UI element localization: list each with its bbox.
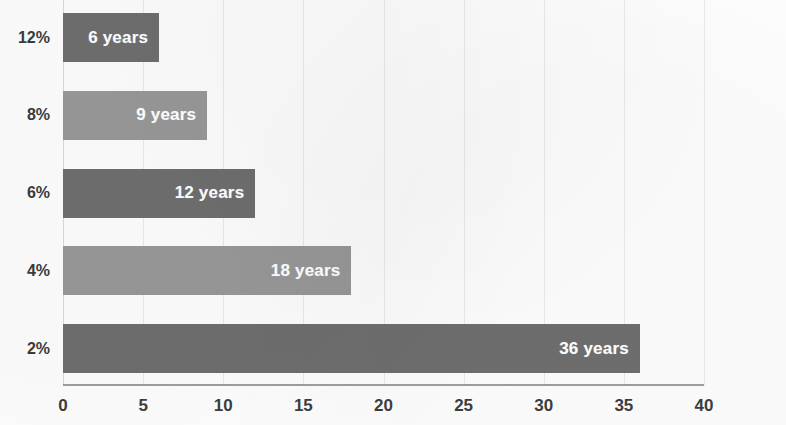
bar-12pct: 6 years	[63, 13, 159, 62]
x-axis-tick-30: 30	[524, 396, 564, 416]
bar-6pct: 12 years	[63, 169, 255, 218]
x-axis-tick-40: 40	[684, 396, 724, 416]
gridline-40	[704, 0, 705, 385]
bar-8pct: 9 years	[63, 91, 207, 140]
y-axis-label-4pct: 4%	[0, 262, 50, 280]
bar-value-label: 36 years	[559, 339, 640, 359]
y-axis-label-8pct: 8%	[0, 106, 50, 124]
x-axis-tick-10: 10	[203, 396, 243, 416]
bar-2pct: 36 years	[63, 324, 640, 373]
bar-4pct: 18 years	[63, 246, 351, 295]
y-axis-label-12pct: 12%	[0, 29, 50, 47]
x-axis-tick-35: 35	[604, 396, 644, 416]
bar-value-label: 9 years	[136, 105, 207, 125]
bar-value-label: 12 years	[175, 183, 256, 203]
x-axis-tick-25: 25	[444, 396, 484, 416]
bar-chart: 6 years9 years12 years18 years36 years 1…	[0, 0, 786, 425]
x-axis-tick-15: 15	[283, 396, 323, 416]
plot-area: 6 years9 years12 years18 years36 years	[63, 0, 704, 385]
y-axis-label-2pct: 2%	[0, 340, 50, 358]
x-axis-tick-20: 20	[364, 396, 404, 416]
x-axis-tick-5: 5	[123, 396, 163, 416]
x-axis-tick-0: 0	[43, 396, 83, 416]
bar-value-label: 6 years	[88, 28, 159, 48]
bar-value-label: 18 years	[271, 261, 352, 281]
y-axis-label-6pct: 6%	[0, 184, 50, 202]
